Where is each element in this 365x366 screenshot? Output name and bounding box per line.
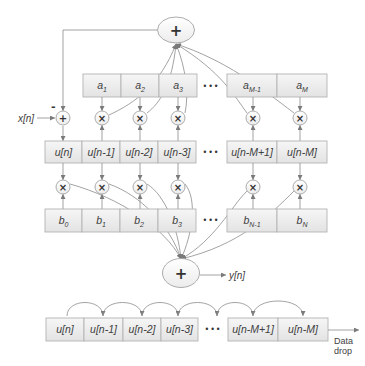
shift-cell-label: u[n-3] [166, 323, 194, 335]
top-adder: + [158, 17, 195, 43]
feedback-node-row: + × × × × × [56, 111, 307, 125]
input-adder: + [56, 111, 70, 125]
multiply-icon: × [174, 113, 182, 124]
feedback-minus-sign: - [51, 100, 56, 113]
shift-register-row: u[n] u[n-1] u[n-2] u[n-3] ••• u[n-M+1] u… [46, 318, 328, 341]
a-cell: a2 [121, 74, 159, 97]
multiply-icon: × [174, 182, 182, 193]
a-cell: a1 [83, 74, 121, 97]
feedback-wire [63, 30, 157, 111]
b-coefficient-row: b0 b1 b2 b3 ••• bN-1 bN [45, 209, 327, 232]
multiplier-node: × [133, 180, 147, 194]
shift-arc [178, 303, 217, 317]
multiplier-node: × [246, 111, 260, 125]
multiply-icon: × [136, 182, 144, 193]
a-cell: aM-1 [227, 74, 277, 97]
plus-icon: + [170, 22, 183, 40]
state-cell-label: u[n-M+1] [231, 146, 274, 158]
multiply-icon: × [98, 182, 106, 193]
ellipsis-icon: ••• [204, 325, 221, 334]
shift-cell-label: u[n-1] [90, 323, 118, 335]
multiplier-node: × [95, 180, 109, 194]
plus-icon: + [59, 113, 67, 124]
shift-arc [103, 303, 142, 317]
multiplier-node: × [56, 180, 70, 194]
multiply-icon: × [249, 113, 257, 124]
a-coefficient-row: a1 a2 a3 ••• aM-1 aM [83, 74, 327, 97]
input-label: x[n] [17, 113, 34, 124]
state-cell-label: u[n-3] [164, 146, 192, 158]
multiply-icon: × [136, 113, 144, 124]
state-cell-label: u[n-M] [287, 146, 318, 158]
shift-arc [142, 303, 178, 317]
a-cell: a3 [159, 74, 197, 97]
plus-icon: + [175, 265, 188, 283]
u-to-multiplier-arrows-bottom [63, 163, 300, 180]
a-to-multiplier-arrows [102, 97, 300, 111]
multiplier-node: × [246, 180, 260, 194]
multiplier-node: × [171, 111, 185, 125]
iir-filter-diagram: - x[n] + a1 a2 a3 ••• aM-1 aM [0, 0, 365, 366]
b-to-multiplier-arrows [63, 194, 300, 209]
ellipsis-icon: ••• [202, 148, 219, 157]
state-cell-label: u[n] [55, 146, 74, 158]
multiply-icon: × [249, 182, 257, 193]
state-cell-label: u[n-1] [88, 146, 116, 158]
multiply-icon: × [296, 182, 304, 193]
shift-arc [253, 301, 303, 316]
output-label: y[n] [228, 270, 245, 281]
data-drop-label-line1: Data [334, 336, 353, 346]
multiply-icon: × [98, 113, 106, 124]
shift-cell-label: u[n-M] [288, 323, 319, 335]
shift-arc [67, 303, 103, 317]
multiplier-node: × [95, 111, 109, 125]
multiplier-node: × [133, 111, 147, 125]
data-drop-label-line2: drop [334, 346, 352, 356]
shift-cell-label: u[n-2] [129, 323, 157, 335]
multiplier-node: × [171, 180, 185, 194]
multiplier-node: × [293, 180, 307, 194]
ellipsis-icon: ••• [202, 82, 219, 91]
state-row: u[n] u[n-1] u[n-2] u[n-3] ••• u[n-M+1] u… [45, 141, 327, 163]
shift-register-arcs [67, 301, 303, 316]
shift-cell-label: u[n-M+1] [232, 323, 275, 335]
multiplier-node: × [293, 111, 307, 125]
state-cell-label: u[n-2] [126, 146, 154, 158]
multiply-icon: × [59, 182, 67, 193]
shift-cell-label: u[n] [56, 323, 75, 335]
ellipsis-icon: ••• [202, 216, 219, 225]
multiply-icon: × [296, 113, 304, 124]
bottom-adder: + [163, 259, 200, 288]
u-to-multiplier-arrows-top [63, 125, 300, 141]
a-cell: aM [277, 74, 327, 97]
shift-arc [217, 303, 253, 317]
